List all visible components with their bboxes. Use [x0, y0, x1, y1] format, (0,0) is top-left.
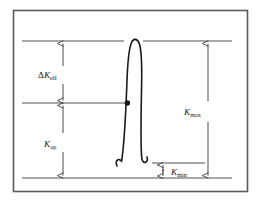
delta-k-eff-subscript: eff: [50, 74, 58, 81]
figure-container: ΔKeff Kop Kmax Kmin: [0, 0, 261, 202]
k-max-label: Kmax: [183, 107, 202, 118]
crack-opening-point: [125, 100, 130, 105]
k-op-label: Kop: [43, 139, 56, 150]
outer-border: [14, 11, 248, 192]
k-op-subscript: op: [50, 143, 56, 150]
delta-k-eff-label: ΔKeff: [38, 70, 58, 81]
k-min-label: Kmin: [170, 167, 187, 178]
reference-lines-group: [22, 41, 232, 178]
k-min-subscript: min: [177, 171, 187, 178]
stress-intensity-diagram: ΔKeff Kop Kmax Kmin: [0, 0, 261, 202]
k-max-subscript: max: [190, 111, 202, 118]
